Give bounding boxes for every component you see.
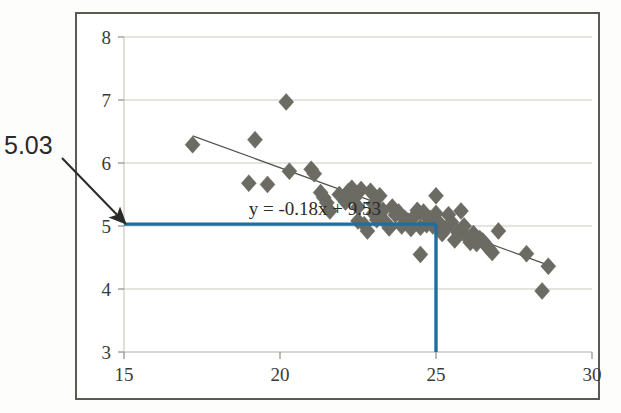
y-tick-label-5: 5 — [102, 216, 112, 237]
y-tick-label-7: 7 — [102, 90, 112, 111]
y-tick-labels-group: 345678 — [102, 27, 112, 363]
data-point — [260, 176, 275, 193]
callout-arrow — [62, 158, 124, 222]
data-point — [413, 246, 428, 263]
y-tick-label-8: 8 — [102, 27, 112, 48]
scatter-chart-figure: 5.03 345678 15202530 y = -0.18x + 9.53 — [0, 0, 621, 413]
x-tick-label-25: 25 — [427, 364, 446, 385]
x-tick-labels-group: 15202530 — [115, 364, 602, 385]
y-tick-label-6: 6 — [102, 153, 112, 174]
data-point — [454, 202, 469, 219]
data-point — [282, 163, 297, 180]
x-tick-label-15: 15 — [115, 364, 134, 385]
y-tick-label-3: 3 — [102, 342, 112, 363]
data-point — [241, 175, 256, 192]
plot-canvas: 345678 15202530 y = -0.18x + 9.53 — [0, 0, 621, 413]
y-tick-label-4: 4 — [102, 279, 112, 300]
data-point — [185, 136, 200, 153]
data-point — [429, 187, 444, 204]
data-point — [541, 258, 556, 275]
x-tick-label-30: 30 — [583, 364, 602, 385]
data-point — [535, 282, 550, 299]
data-point — [248, 131, 263, 148]
highlight-lines-group — [124, 224, 436, 352]
scatter-points-group — [185, 93, 556, 299]
equation-text: y = -0.18x + 9.53 — [249, 198, 381, 219]
trendline-equation-label: y = -0.18x + 9.53 — [249, 198, 381, 219]
x-tick-label-20: 20 — [271, 364, 290, 385]
callout-arrow-line — [62, 158, 124, 222]
data-point — [491, 223, 506, 240]
data-point — [279, 93, 294, 110]
